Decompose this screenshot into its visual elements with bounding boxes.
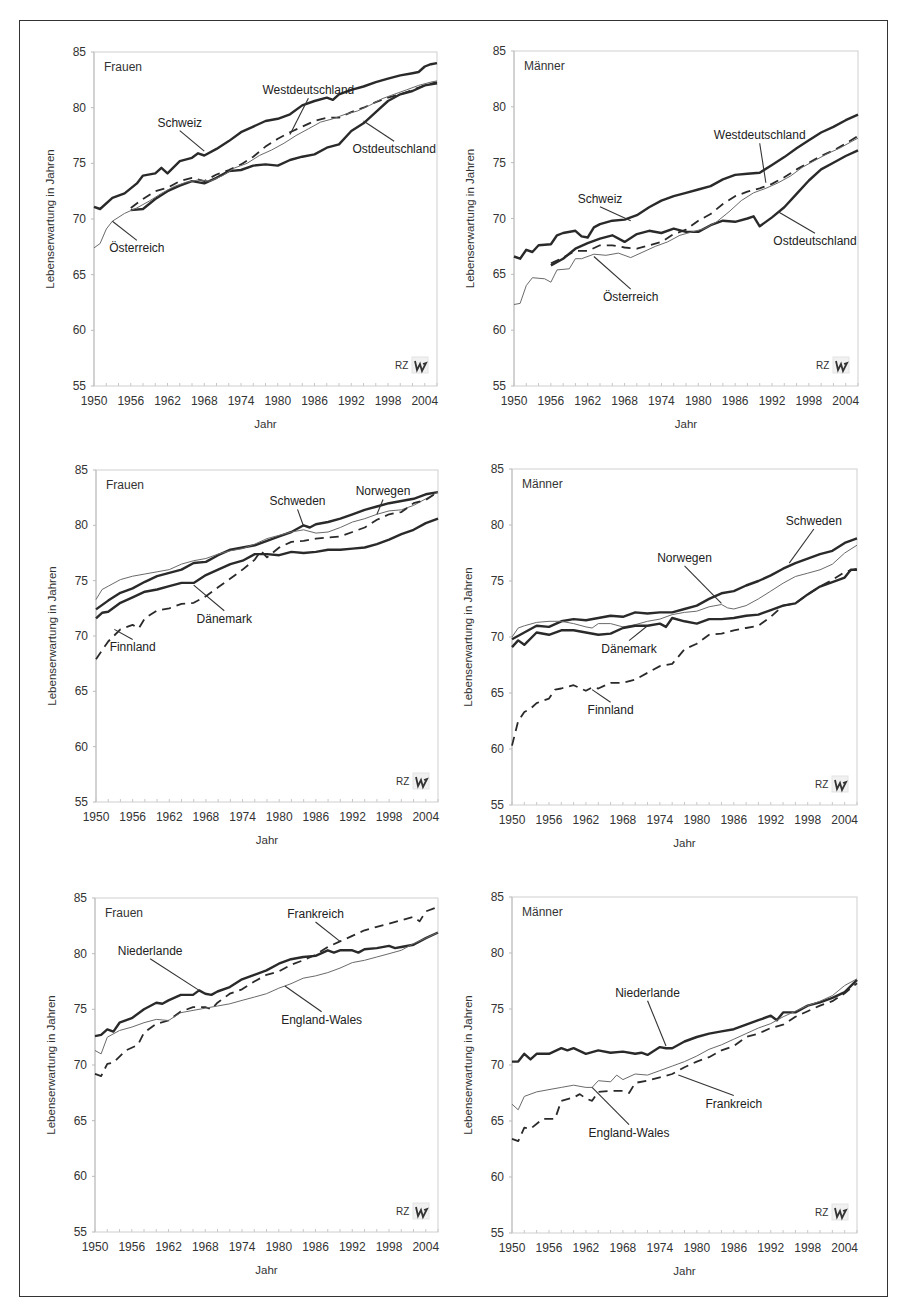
series-label: Schweiz (157, 116, 202, 130)
y-tick-label: 60 (74, 1169, 88, 1183)
series-label: England-Wales (281, 1013, 362, 1027)
rz-text: RZ (815, 779, 828, 790)
y-tick-label: 70 (493, 212, 507, 226)
x-tick-label: 1974 (647, 813, 674, 827)
y-tick-label: 55 (74, 1225, 88, 1239)
x-tick-label: 1980 (685, 394, 712, 408)
y-tick-label: 80 (493, 100, 507, 114)
x-tick-label: 1962 (574, 394, 601, 408)
rz-text: RZ (396, 776, 409, 787)
series-label: Schweden (786, 514, 842, 528)
x-tick-label: 1980 (683, 1241, 710, 1255)
x-tick-label: 1962 (156, 810, 183, 824)
y-tick-label: 85 (75, 463, 89, 477)
rz-text: RZ (816, 360, 829, 371)
series-label: Österreich (603, 290, 658, 304)
y-tick-label: 65 (74, 1114, 88, 1128)
y-tick-label: 80 (75, 518, 89, 532)
chart-panel-4: 5560657075808519501956196219681974198019… (452, 457, 867, 865)
chart-panel-1: 5560657075808519501956196219681974198019… (34, 40, 447, 446)
x-tick-label: 1986 (303, 810, 330, 824)
y-tick-label: 75 (491, 574, 505, 588)
chart-panel-2: 5560657075808519501956196219681974198019… (454, 39, 868, 446)
x-tick-label: 1956 (536, 1241, 563, 1255)
x-tick-label: 1998 (375, 394, 402, 408)
rz-logo: RZ (815, 1204, 848, 1220)
y-tick-label: 75 (75, 574, 89, 588)
y-axis-title: Lebenserwartung in Jahren (462, 567, 474, 706)
chart-panel-5: 5560657075808519501956196219681974198019… (35, 886, 448, 1292)
y-tick-label: 85 (493, 44, 507, 58)
series-label: Finnland (588, 703, 634, 717)
x-tick-label: 1998 (376, 810, 403, 824)
plot-area (512, 897, 857, 1233)
x-tick-label: 1986 (301, 394, 328, 408)
x-tick-label: 1992 (339, 810, 366, 824)
x-tick-label: 2004 (412, 1240, 439, 1254)
y-axis-title: Lebenserwartung in Jahren (462, 995, 474, 1134)
y-tick-label: 60 (73, 323, 87, 337)
series-label: Ostdeutschland (773, 234, 856, 248)
rz-logo: RZ (396, 1203, 429, 1219)
y-tick-label: 55 (75, 795, 89, 809)
x-tick-label: 1950 (501, 394, 528, 408)
x-tick-label: 1980 (266, 810, 293, 824)
x-tick-label: 1968 (191, 394, 218, 408)
rz-logo: RZ (816, 357, 849, 373)
series-label: Niederlande (118, 944, 183, 958)
x-tick-label: 1974 (229, 1240, 256, 1254)
x-tick-label: 1992 (757, 813, 784, 827)
y-tick-label: 65 (73, 268, 87, 282)
y-tick-label: 75 (491, 1002, 505, 1016)
y-tick-label: 55 (73, 379, 87, 393)
panel-title: Männer (524, 59, 565, 73)
y-tick-label: 75 (493, 156, 507, 170)
y-axis-title: Lebenserwartung in Jahren (44, 149, 56, 288)
y-tick-label: 55 (491, 1226, 505, 1240)
y-tick-label: 70 (75, 629, 89, 643)
x-tick-label: 1980 (683, 813, 710, 827)
panel-title: Frauen (105, 906, 143, 920)
x-tick-label: 1974 (647, 1241, 674, 1255)
x-tick-label: 2004 (412, 810, 439, 824)
series-label: Westdeutschland (262, 83, 354, 97)
x-tick-label: 1956 (117, 394, 144, 408)
plot-area (514, 51, 858, 386)
chart-panel-6: 5560657075808519501956196219681974198019… (452, 885, 867, 1293)
x-tick-label: 2004 (831, 1241, 858, 1255)
x-tick-label: 1980 (265, 1240, 292, 1254)
y-tick-label: 85 (73, 45, 87, 59)
x-tick-label: 1998 (794, 1241, 821, 1255)
y-tick-label: 60 (493, 323, 507, 337)
x-axis-title: Jahr (673, 1265, 696, 1277)
x-tick-label: 1962 (155, 1240, 182, 1254)
series-label: Finnland (110, 640, 156, 654)
x-tick-label: 1986 (302, 1240, 329, 1254)
y-tick-label: 85 (74, 891, 88, 905)
x-tick-label: 1998 (376, 1240, 403, 1254)
series-label: Österreich (109, 241, 164, 255)
x-tick-label: 1950 (83, 810, 110, 824)
x-tick-label: 1968 (611, 394, 638, 408)
y-tick-label: 55 (493, 379, 507, 393)
series-label: England-Wales (589, 1126, 670, 1140)
x-tick-label: 1968 (193, 810, 220, 824)
y-tick-label: 65 (491, 1114, 505, 1128)
x-tick-label: 1950 (81, 394, 108, 408)
series-label: Norwegen (657, 551, 712, 565)
y-tick-label: 80 (491, 946, 505, 960)
x-axis-title: Jahr (673, 837, 696, 849)
rz-logo: RZ (815, 776, 848, 792)
y-tick-label: 70 (491, 1058, 505, 1072)
y-tick-label: 85 (491, 462, 505, 476)
x-tick-label: 1956 (538, 394, 565, 408)
x-tick-label: 1974 (229, 810, 256, 824)
y-tick-label: 60 (75, 740, 89, 754)
x-tick-label: 1968 (610, 1241, 637, 1255)
x-tick-label: 1968 (610, 813, 637, 827)
series-label: Ostdeutschland (352, 142, 435, 156)
y-tick-label: 80 (74, 947, 88, 961)
panel-title: Männer (522, 905, 563, 919)
x-tick-label: 1962 (154, 394, 181, 408)
x-tick-label: 1986 (722, 394, 749, 408)
